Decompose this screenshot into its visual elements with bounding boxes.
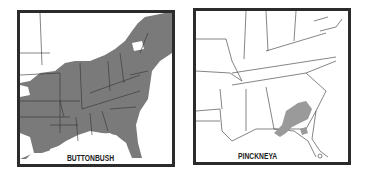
pinckneya-range-map — [196, 11, 348, 162]
great-lakes-area — [60, 15, 104, 53]
state-boundaries — [196, 11, 342, 157]
pinckneya-label: PINCKNEYA — [238, 151, 277, 161]
pinckneya-map: PINCKNEYA — [193, 8, 351, 165]
buttonbush-label: BUTTONBUSH — [67, 153, 114, 163]
buttonbush-map: BUTTONBUSH — [17, 10, 175, 167]
lake-okeechobee — [318, 154, 322, 158]
pinckneya-outlier — [300, 127, 308, 135]
buttonbush-range-map — [20, 13, 172, 164]
